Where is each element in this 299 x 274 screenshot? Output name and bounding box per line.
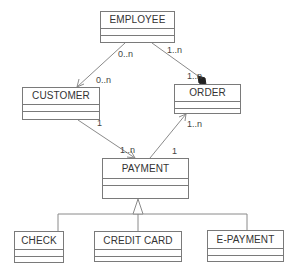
attributes-compartment (15, 250, 63, 257)
attributes-compartment (95, 250, 181, 257)
class-name: CREDIT CARD (95, 232, 181, 250)
class-check[interactable]: CHECK (14, 231, 64, 263)
attributes-compartment (103, 179, 188, 186)
class-customer[interactable]: CUSTOMER (22, 87, 100, 120)
attributes-compartment (101, 29, 174, 36)
uml-class-diagram: EMPLOYEE CUSTOMER ORDER PAYMENT CHECK CR… (0, 0, 299, 274)
class-order[interactable]: ORDER (174, 84, 241, 114)
class-payment[interactable]: PAYMENT (102, 158, 189, 199)
multiplicity-employee-order-src: 1..n (167, 45, 182, 55)
attributes-compartment (23, 105, 99, 112)
attributes-compartment (175, 102, 240, 109)
class-e-payment[interactable]: E-PAYMENT (207, 230, 284, 262)
multiplicity-employee-customer-dst: 0..n (96, 75, 111, 85)
class-name: ORDER (175, 85, 240, 102)
class-name: PAYMENT (103, 159, 188, 179)
multiplicity-employee-order-dst: 1..n (187, 71, 202, 81)
class-name: CUSTOMER (23, 88, 99, 105)
generalization-triangle-icon (133, 199, 143, 214)
class-name: E-PAYMENT (208, 231, 283, 249)
assoc-payment-order (150, 114, 186, 158)
multiplicity-payment-order-src: 1 (172, 146, 177, 156)
multiplicity-employee-customer-src: 0..n (118, 49, 133, 59)
class-name: CHECK (15, 232, 63, 250)
multiplicity-payment-order-dst: 1..n (187, 119, 202, 129)
multiplicity-customer-payment-src: 1 (97, 118, 102, 128)
class-employee[interactable]: EMPLOYEE (100, 11, 175, 43)
attributes-compartment (208, 249, 283, 256)
class-name: EMPLOYEE (101, 12, 174, 29)
class-credit-card[interactable]: CREDIT CARD (94, 231, 182, 262)
multiplicity-customer-payment-dst: 1..n (120, 145, 135, 155)
